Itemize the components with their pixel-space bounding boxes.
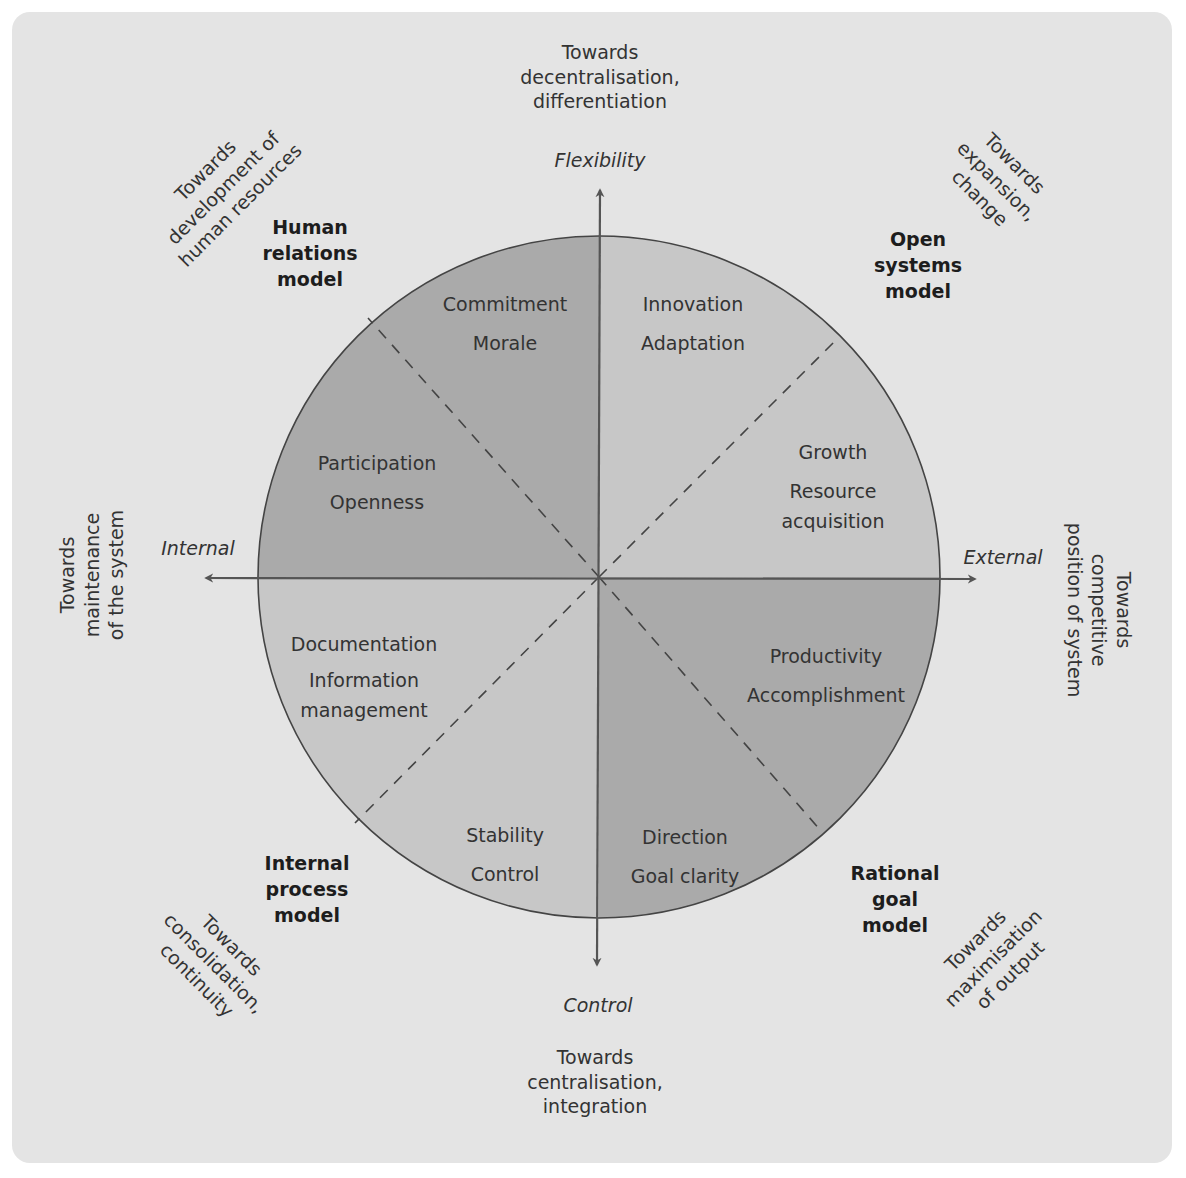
external-label: External — [948, 545, 1058, 570]
text-line: Control — [420, 855, 590, 894]
segment-stability-control: Stability Control — [420, 816, 590, 894]
segment-productivity-accomplishment: Productivity Accomplishment — [726, 637, 926, 715]
text-line: model — [240, 266, 380, 292]
text-line: systems — [848, 252, 988, 278]
text-line: goal — [825, 886, 965, 912]
text-line: maintenance — [80, 475, 105, 675]
open-systems-model-label: Open systems model — [848, 226, 988, 305]
flexibility-label: Flexibility — [520, 148, 680, 173]
text-line: Goal clarity — [600, 857, 770, 896]
text-line: Information — [274, 666, 454, 695]
text-line: model — [825, 912, 965, 938]
text-line: Resource — [748, 477, 918, 506]
text-line: Productivity — [726, 637, 926, 676]
text-line: Towards — [1111, 510, 1136, 710]
text-line: Towards — [465, 1045, 725, 1070]
text-line: position of system — [1062, 510, 1087, 710]
text-line: of the system — [104, 475, 129, 675]
text-line: Rational — [825, 860, 965, 886]
text-line: Participation — [292, 444, 462, 483]
internal-process-model-label: Internal process model — [237, 850, 377, 929]
right-direction-label: Towards competitive position of system — [1056, 510, 1136, 710]
segment-documentation-information: Documentation Information management — [274, 630, 454, 725]
left-direction-label: Towards maintenance of the system — [55, 475, 135, 675]
text-line: Direction — [600, 818, 770, 857]
text-line: Documentation — [274, 630, 454, 659]
segment-commitment-morale: Commitment Morale — [420, 285, 590, 363]
segment-growth-resource-acquisition: Growth Resource acquisition — [748, 438, 918, 536]
segment-innovation-adaptation: Innovation Adaptation — [608, 285, 778, 363]
human-relations-model-label: Human relations model — [240, 214, 380, 293]
text-line: differentiation — [470, 89, 730, 114]
control-label: Control — [518, 993, 678, 1018]
text-line: Innovation — [608, 285, 778, 324]
internal-external-axis — [206, 578, 975, 579]
text-line: Growth — [748, 438, 918, 467]
text-line: Openness — [292, 483, 462, 522]
bottom-direction-label: Towards centralisation, integration — [465, 1045, 725, 1119]
text-line: Morale — [420, 324, 590, 363]
segment-direction-goal-clarity: Direction Goal clarity — [600, 818, 770, 896]
text-line: Internal — [237, 850, 377, 876]
top-direction-label: Towards decentralisation, differentiatio… — [470, 40, 730, 114]
text-line: Human — [240, 214, 380, 240]
text-line: Open — [848, 226, 988, 252]
text-line: integration — [465, 1094, 725, 1119]
segment-participation-openness: Participation Openness — [292, 444, 462, 522]
text-line: Accomplishment — [726, 676, 926, 715]
text-line: Stability — [420, 816, 590, 855]
text-line: Commitment — [420, 285, 590, 324]
text-line: decentralisation, — [470, 65, 730, 90]
text-line: Adaptation — [608, 324, 778, 363]
text-line: competitive — [1087, 510, 1112, 710]
internal-label: Internal — [148, 536, 248, 561]
text-line: acquisition — [748, 507, 918, 536]
text-line: model — [848, 278, 988, 304]
text-line: management — [274, 696, 454, 725]
text-line: Towards — [470, 40, 730, 65]
text-line: model — [237, 902, 377, 928]
text-line: centralisation, — [465, 1070, 725, 1095]
text-line: relations — [240, 240, 380, 266]
rational-goal-model-label: Rational goal model — [825, 860, 965, 939]
text-line: Towards — [55, 475, 80, 675]
text-line: process — [237, 876, 377, 902]
